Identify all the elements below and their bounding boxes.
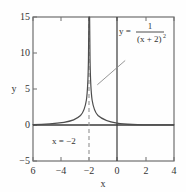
y-tick-labels: 15 10 5 0 −5	[19, 11, 30, 166]
chart-figure: y = 1 (x + 2) 2 x = −2 15 10 5 0 −5 6 −4…	[0, 0, 186, 192]
y-tick-label-0: 0	[25, 119, 30, 130]
y-tick-label-10: 10	[20, 47, 30, 58]
chart-svg: y = 1 (x + 2) 2 x = −2 15 10 5 0 −5 6 −4…	[0, 0, 186, 192]
equation-denominator: (x + 2)	[137, 34, 162, 44]
y-tick-label-5: 5	[25, 83, 30, 94]
x-tick-label-neg2: −2	[84, 165, 95, 176]
equation-numerator: 1	[148, 21, 153, 31]
x-tick-label-2: 2	[144, 165, 149, 176]
equation-denominator-exponent: 2	[163, 33, 166, 39]
y-axis-title: y	[12, 83, 17, 94]
x-tick-label-neg6: 6	[31, 165, 36, 176]
y-tick-label-neg5: −5	[19, 155, 30, 166]
x-tick-labels: 6 −4 −2 0 2 4	[31, 165, 177, 176]
y-tick-label-15: 15	[20, 11, 30, 22]
x-tick-label-neg4: −4	[56, 165, 67, 176]
x-tick-label-4: 4	[172, 165, 177, 176]
equation-lhs: y =	[119, 26, 131, 36]
asymptote-label: x = −2	[52, 136, 76, 146]
x-tick-label-0: 0	[115, 165, 120, 176]
x-axis-title: x	[101, 178, 106, 189]
